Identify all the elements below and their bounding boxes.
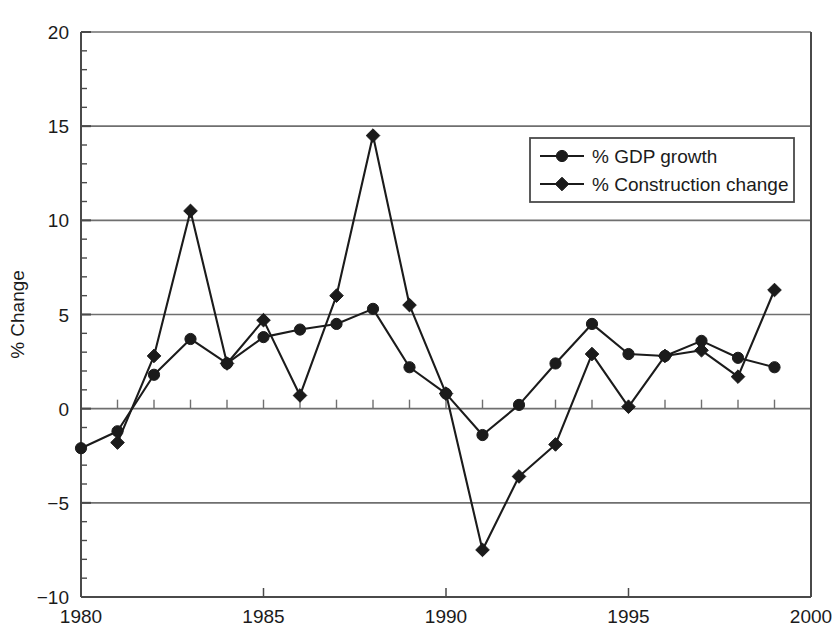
x-axis-tick-label: 1985 bbox=[242, 606, 284, 627]
legend-label: % Construction change bbox=[592, 174, 788, 195]
x-axis-tick-label: 1995 bbox=[607, 606, 649, 627]
data-point-marker bbox=[513, 399, 524, 410]
data-point-marker bbox=[550, 358, 561, 369]
data-point-marker bbox=[623, 348, 634, 359]
y-axis-title: % Change bbox=[7, 270, 28, 359]
y-axis-tick-label: −5 bbox=[47, 493, 69, 514]
data-point-marker bbox=[258, 332, 269, 343]
data-point-marker bbox=[367, 303, 378, 314]
y-axis-tick-label: 10 bbox=[48, 210, 69, 231]
legend-label: % GDP growth bbox=[592, 146, 717, 167]
chart-container: 19801985199019952000 20151050−5−10 % Cha… bbox=[0, 0, 833, 644]
y-axis-tick-label: 5 bbox=[58, 305, 69, 326]
y-axis-tick-label: 15 bbox=[48, 116, 69, 137]
x-axis-tick-label: 1990 bbox=[425, 606, 467, 627]
y-axis-tick-label: 0 bbox=[58, 399, 69, 420]
y-axis-title-text: % Change bbox=[7, 270, 28, 359]
data-point-marker bbox=[185, 333, 196, 344]
x-axis-tick-label: 1980 bbox=[60, 606, 102, 627]
data-point-marker bbox=[477, 429, 488, 440]
data-point-marker bbox=[732, 352, 743, 363]
data-point-marker bbox=[404, 362, 415, 373]
x-axis-tick-label: 2000 bbox=[790, 606, 832, 627]
y-axis-tick-label: 20 bbox=[48, 22, 69, 43]
legend-marker-circle bbox=[556, 150, 567, 161]
y-axis-tick-label: −10 bbox=[37, 587, 69, 608]
data-point-marker bbox=[769, 362, 780, 373]
line-chart: 19801985199019952000 20151050−5−10 % Cha… bbox=[0, 0, 833, 644]
chart-legend: % GDP growth% Construction change bbox=[530, 138, 794, 202]
data-point-marker bbox=[75, 443, 86, 454]
data-point-marker bbox=[148, 369, 159, 380]
data-point-marker bbox=[586, 318, 597, 329]
data-point-marker bbox=[294, 324, 305, 335]
data-point-marker bbox=[331, 318, 342, 329]
